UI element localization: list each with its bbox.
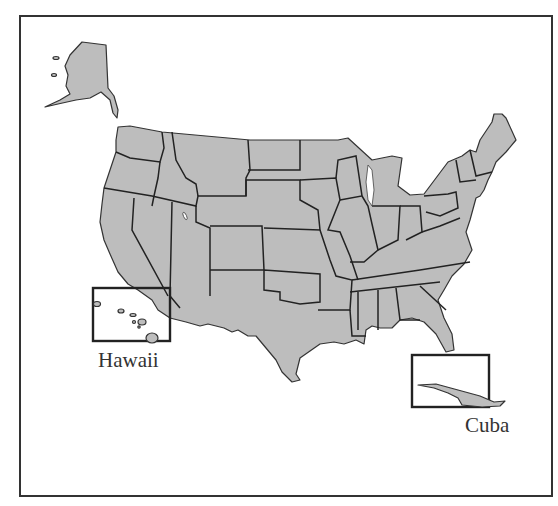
hawaii-label: Hawaii [98, 350, 159, 371]
cuba-label: Cuba [465, 415, 509, 436]
cuba-inset [412, 355, 505, 407]
cuba-island [418, 384, 505, 407]
alaska [45, 42, 118, 118]
